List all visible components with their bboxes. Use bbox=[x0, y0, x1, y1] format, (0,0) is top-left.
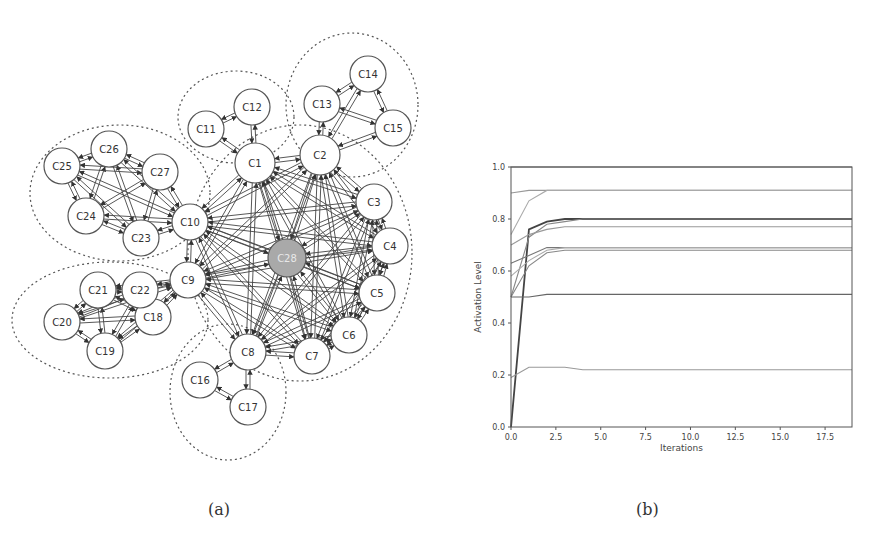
x-tick-label: 0.0 bbox=[505, 433, 518, 442]
edge bbox=[374, 91, 384, 112]
node-c22: C22 bbox=[122, 272, 158, 308]
node-label: C22 bbox=[130, 285, 150, 296]
edge bbox=[126, 155, 144, 163]
node-label: C14 bbox=[358, 69, 378, 80]
node-c25: C25 bbox=[44, 148, 80, 184]
node-c4: C4 bbox=[372, 228, 408, 264]
y-tick-label: 0.2 bbox=[492, 371, 505, 380]
node-c15: C15 bbox=[375, 110, 411, 146]
node-label: C16 bbox=[190, 375, 210, 386]
edge bbox=[339, 136, 376, 150]
series-line-s5 bbox=[511, 219, 852, 297]
edge bbox=[275, 155, 300, 158]
edge bbox=[377, 89, 387, 110]
edge bbox=[215, 391, 232, 400]
plot-frame bbox=[511, 167, 852, 427]
series-line-s10 bbox=[511, 294, 852, 297]
edge bbox=[104, 215, 172, 219]
node-label: C21 bbox=[88, 285, 108, 296]
edge bbox=[171, 186, 182, 205]
edge bbox=[202, 175, 239, 208]
node-c16: C16 bbox=[182, 362, 218, 398]
node-c11: C11 bbox=[188, 111, 224, 147]
node-label: C4 bbox=[383, 241, 396, 252]
node-c23: C23 bbox=[123, 220, 159, 256]
chart-series-lines bbox=[511, 167, 852, 427]
node-label: C12 bbox=[242, 102, 262, 113]
node-c26: C26 bbox=[91, 131, 127, 167]
node-c21: C21 bbox=[80, 272, 116, 308]
series-line-s8 bbox=[511, 248, 852, 277]
edge bbox=[206, 231, 336, 323]
edge bbox=[382, 218, 386, 228]
y-tick-label: 1.0 bbox=[492, 163, 505, 172]
activation-chart: 0.00.20.40.60.81.00.02.55.07.510.012.515… bbox=[440, 140, 882, 470]
activation-chart-svg: 0.00.20.40.60.81.00.02.55.07.510.012.515… bbox=[440, 140, 882, 470]
edge bbox=[103, 221, 125, 230]
node-label: C18 bbox=[143, 312, 163, 323]
node-label: C5 bbox=[370, 288, 383, 299]
node-label: C11 bbox=[196, 124, 216, 135]
x-tick-label: 12.5 bbox=[726, 433, 744, 442]
node-c2: C2 bbox=[300, 135, 340, 175]
series-line-s6 bbox=[511, 227, 852, 245]
node-c9: C9 bbox=[170, 262, 206, 298]
x-tick-label: 17.5 bbox=[816, 433, 834, 442]
node-c1: C1 bbox=[235, 143, 275, 183]
y-tick-label: 0.8 bbox=[492, 215, 505, 224]
edge bbox=[80, 169, 142, 173]
node-label: C13 bbox=[312, 99, 332, 110]
edge bbox=[275, 159, 300, 162]
node-label: C10 bbox=[180, 217, 200, 228]
edge bbox=[80, 320, 135, 323]
node-c20: C20 bbox=[44, 304, 80, 340]
series-line-s3 bbox=[511, 190, 852, 234]
node-c14: C14 bbox=[350, 56, 386, 92]
x-axis-label: Iterations bbox=[660, 443, 703, 453]
edge bbox=[325, 174, 348, 316]
node-c13: C13 bbox=[304, 86, 340, 122]
edge bbox=[187, 240, 188, 262]
edge bbox=[255, 125, 256, 143]
node-c12: C12 bbox=[234, 89, 270, 125]
edge bbox=[76, 334, 89, 343]
node-label: C9 bbox=[181, 275, 194, 286]
edge bbox=[113, 167, 133, 222]
edge bbox=[338, 86, 354, 96]
edge bbox=[78, 153, 91, 158]
node-c28: C28 bbox=[268, 239, 306, 277]
caption-a: (a) bbox=[208, 500, 230, 519]
node-label: C8 bbox=[241, 347, 254, 358]
node-c7: C7 bbox=[294, 338, 330, 374]
edge bbox=[206, 230, 268, 253]
caption-b: (b) bbox=[636, 500, 659, 519]
node-c10: C10 bbox=[172, 204, 208, 240]
x-tick-label: 2.5 bbox=[550, 433, 563, 442]
node-label: C23 bbox=[131, 233, 151, 244]
node-c8: C8 bbox=[230, 334, 266, 370]
node-c17: C17 bbox=[230, 389, 266, 425]
edge bbox=[266, 351, 294, 353]
node-c5: C5 bbox=[359, 275, 395, 311]
edge bbox=[266, 355, 294, 357]
x-tick-label: 5.0 bbox=[594, 433, 607, 442]
node-label: C27 bbox=[150, 167, 170, 178]
node-c27: C27 bbox=[142, 154, 178, 190]
edge bbox=[215, 359, 232, 369]
node-c3: C3 bbox=[356, 184, 392, 220]
chart-axes: 0.00.20.40.60.81.00.02.55.07.510.012.515… bbox=[492, 163, 834, 442]
node-label: C19 bbox=[95, 346, 115, 357]
edge bbox=[102, 225, 124, 234]
edge bbox=[319, 122, 320, 135]
edge bbox=[80, 157, 93, 162]
node-label: C28 bbox=[277, 253, 297, 264]
y-axis-label: Activation Level bbox=[473, 261, 483, 333]
edge bbox=[336, 82, 352, 92]
edge bbox=[251, 125, 252, 143]
edge bbox=[159, 229, 174, 234]
x-tick-label: 7.5 bbox=[639, 433, 652, 442]
node-label: C3 bbox=[367, 197, 380, 208]
edge bbox=[157, 226, 172, 231]
edge bbox=[78, 330, 91, 339]
edge bbox=[321, 175, 344, 317]
